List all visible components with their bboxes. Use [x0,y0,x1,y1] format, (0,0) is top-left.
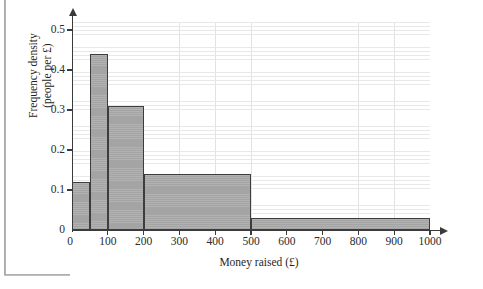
y-axis-title-line2: (people per £) [41,0,55,159]
x-axis-tick-label: 600 [278,236,295,248]
x-axis-line [72,230,446,231]
y-axis-tick-label: 0 [59,224,65,236]
y-axis-tick [67,149,73,150]
y-axis-title: Frequency density (people per £) [27,0,54,159]
scan-edge-bottom [4,274,70,276]
x-axis-tick-label: 100 [99,236,116,248]
x-axis-tick-label: 1000 [419,236,442,248]
plot-area [72,22,430,230]
y-axis-tick [67,29,73,30]
y-axis-title-line1: Frequency density [27,0,41,159]
x-axis-arrow-icon [440,227,448,235]
y-axis-tick [67,109,73,110]
x-axis-tick-label: 700 [314,236,331,248]
x-axis-tick-label: 200 [135,236,152,248]
x-axis-tick-label: 500 [242,236,259,248]
x-axis-tick-label: 900 [386,236,403,248]
scan-edge-left [4,0,6,276]
x-axis-tick-label: 800 [350,236,367,248]
histogram-bar [251,218,430,230]
x-axis-tick-label: 0 [67,236,73,248]
x-axis-title: Money raised (£) [72,256,446,268]
y-axis-tick [67,69,73,70]
x-axis-tick-label: 300 [171,236,188,248]
y-axis-line [72,14,73,232]
histogram-figure: 00.10.20.30.40.5 01002003004005006007008… [0,0,483,289]
x-axis-tick-label: 400 [207,236,224,248]
histogram-bar [90,54,108,230]
y-axis-arrow-icon [69,8,77,16]
y-axis-tick-label: 0.1 [51,184,65,196]
histogram-bar [108,106,144,230]
histogram-bar [72,182,90,230]
y-axis-tick [67,189,73,190]
histogram-bar [144,174,251,230]
